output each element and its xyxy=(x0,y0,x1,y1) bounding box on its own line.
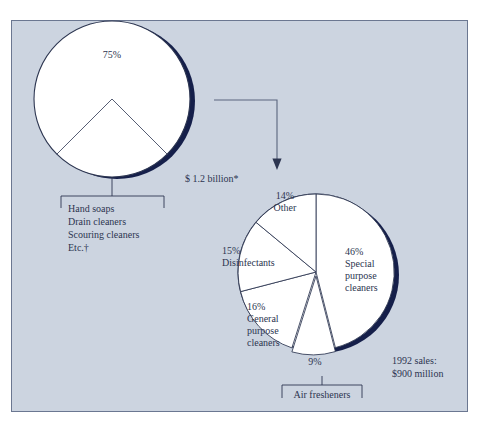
label-other-percent: 14% xyxy=(276,190,294,201)
label-general-line2: purpose xyxy=(247,325,279,336)
sales-note-line1: 1992 sales: xyxy=(392,355,437,366)
label-disinfectants-name: Disinfectants xyxy=(222,257,275,268)
label-other-name: Other xyxy=(274,202,297,213)
label-general-line3: cleaners xyxy=(247,337,280,348)
label-general-percent: 16% xyxy=(247,301,265,312)
label-special-line3: cleaners xyxy=(345,282,378,293)
label-special-percent: 46% xyxy=(345,246,363,257)
label-special-line2: purpose xyxy=(345,270,377,281)
callout-line-4: Etc.† xyxy=(68,242,89,253)
label-general-line1: General xyxy=(247,313,279,324)
sales-note-line2: $900 million xyxy=(392,368,443,379)
callout-line-3: Scouring cleaners xyxy=(68,229,139,240)
label-special-line1: Special xyxy=(345,258,375,269)
pie-top: 75% xyxy=(34,21,195,179)
label-air-percent: 9% xyxy=(308,356,321,367)
label-disinfectants-percent: 15% xyxy=(222,245,240,256)
callout-line-1: Hand soaps xyxy=(68,203,114,214)
callout-line-2: Drain cleaners xyxy=(68,216,126,227)
figure-container: 75% Hand soaps Drain cleaners Scouring c… xyxy=(0,0,479,425)
connector-value-label: $ 1.2 billion* xyxy=(185,173,239,184)
air-fresheners-label: Air fresheners xyxy=(294,389,351,400)
pie-top-percent-label: 75% xyxy=(103,49,121,60)
pie-chart-figure: 75% Hand soaps Drain cleaners Scouring c… xyxy=(0,0,479,425)
